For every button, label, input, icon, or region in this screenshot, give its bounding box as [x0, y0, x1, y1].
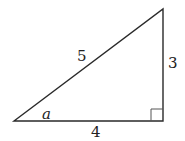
right-triangle-diagram: 5 3 4 a	[0, 0, 185, 141]
vertical-leg-label: 3	[168, 54, 178, 72]
hypotenuse-label: 5	[77, 47, 87, 65]
right-angle-marker	[151, 109, 163, 121]
angle-label: a	[42, 105, 51, 123]
horizontal-leg-label: 4	[91, 123, 101, 141]
triangle-outline	[14, 9, 163, 121]
